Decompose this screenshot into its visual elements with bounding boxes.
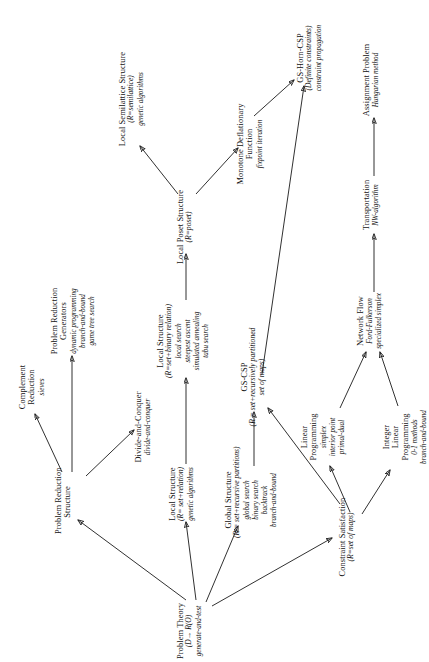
node-network-flow[interactable]: Network Flow Ford-Fulkerson specialized … bbox=[356, 286, 384, 356]
node-algorithm-2: interior point bbox=[329, 406, 337, 468]
node-algorithm-4: tabu search bbox=[202, 296, 210, 386]
node-local-structure-binary-relation[interactable]: Local Structure (R=set+binary relation) … bbox=[156, 296, 210, 386]
node-title-line2: Generators bbox=[59, 284, 68, 358]
edge-lp-nf bbox=[340, 352, 366, 408]
node-algorithm-3: simulated annealing bbox=[193, 296, 201, 386]
node-monotone-deflationary-function[interactable]: Monotone Deflationary Function fixpoint … bbox=[236, 102, 264, 186]
node-constraint-satisfaction[interactable]: Constraint Satisfaction (R=set of maps) bbox=[338, 494, 356, 580]
node-transportation[interactable]: Transportation NW-algorithm bbox=[362, 172, 380, 238]
node-title-line2: Reduction bbox=[27, 358, 36, 416]
node-title-line2: Linear bbox=[391, 402, 400, 472]
node-algorithm-1: fixpoint iteration bbox=[256, 102, 264, 186]
edge-gscsp-ghc bbox=[262, 86, 304, 374]
node-algorithms: divide-and-conquer bbox=[144, 388, 152, 466]
node-problem-theory[interactable]: Problem Theory (D→ R(O) generate-and-tes… bbox=[176, 600, 203, 662]
node-title-line2: Function bbox=[245, 102, 254, 186]
node-subtitle: (R=set+binary relation) bbox=[165, 296, 174, 386]
node-title-line2: Structure bbox=[63, 470, 72, 534]
node-title-line3: Programming bbox=[401, 402, 410, 472]
node-subtitle-line2: set of maps) bbox=[258, 318, 267, 436]
node-algorithm-3: game tree search bbox=[88, 284, 96, 358]
node-title-line1: Linear bbox=[300, 406, 309, 468]
node-global-structure[interactable]: Global Structure (R = set+recursive part… bbox=[224, 462, 278, 538]
node-algorithms: sieves bbox=[38, 358, 46, 416]
node-algorithm-2: branch-and-bound bbox=[79, 284, 87, 358]
node-algorithm-3: backtrack bbox=[261, 462, 269, 538]
node-algorithm-3: primal-dual bbox=[338, 406, 346, 468]
node-algorithm-1: 0-1 methods bbox=[411, 402, 419, 472]
node-subtitle: (R=semilattice) bbox=[127, 48, 136, 150]
node-algorithm-1: simplex bbox=[320, 406, 328, 468]
node-local-poset-structure[interactable]: Local Poset Structure (R=poset) bbox=[176, 188, 194, 266]
node-integer-linear-programming[interactable]: Integer Linear Programming 0-1 methods b… bbox=[382, 402, 428, 472]
node-title-line1: Complement bbox=[18, 358, 27, 416]
node-gs-horn-csp[interactable]: GS-Horn-CSP (Definite constraints) const… bbox=[296, 10, 323, 106]
node-subtitle: (D→ R(O) bbox=[185, 600, 194, 662]
node-title-line2: Programming bbox=[309, 406, 318, 468]
node-algorithm-1: constraint propagation bbox=[315, 10, 323, 106]
node-algorithm-2: branch-and-bound bbox=[420, 402, 428, 472]
node-algorithm-2: binary search bbox=[252, 462, 260, 538]
edge-prs-cr bbox=[35, 414, 62, 472]
node-subtitle: (Definite constraints) bbox=[305, 10, 314, 106]
diagram-canvas: Problem Theory (D→ R(O) generate-and-tes… bbox=[0, 0, 429, 662]
node-title-line1: Problem Reduction bbox=[50, 284, 59, 358]
node-title-line1: Divide-and-Conquer bbox=[134, 388, 143, 466]
node-algorithm-4: branch-and-bound bbox=[270, 462, 278, 538]
node-algorithms: generate-and-test bbox=[195, 600, 203, 662]
edge-pt-cs bbox=[212, 538, 332, 606]
edge-pt-ls bbox=[186, 522, 196, 600]
edge-ilp-nf bbox=[380, 352, 398, 406]
node-assignment-problem[interactable]: Assignment Problem Hungarian method bbox=[362, 38, 380, 122]
node-algorithm-2: steepest ascent bbox=[184, 296, 192, 386]
diagram-page: Problem Theory (D→ R(O) generate-and-tes… bbox=[0, 0, 429, 662]
node-algorithm-1: genetic algorithms bbox=[187, 460, 195, 528]
node-complement-reduction[interactable]: Complement Reduction sieves bbox=[18, 358, 46, 416]
node-title-line1: Problem Reduction bbox=[54, 470, 63, 534]
node-algorithm-2: specialized simplex bbox=[375, 286, 383, 356]
node-title-line1: Network Flow bbox=[356, 286, 365, 356]
node-algorithm-1: Hungarian method bbox=[372, 38, 380, 122]
node-subtitle: (R=set of maps) bbox=[347, 494, 356, 580]
node-algorithm-1: local search bbox=[175, 296, 183, 386]
node-linear-programming[interactable]: Linear Programming simplex interior poin… bbox=[300, 406, 346, 468]
node-algorithm-1: genetic algorithms bbox=[137, 48, 145, 150]
node-problem-reduction-structure[interactable]: Problem Reduction Structure bbox=[54, 470, 73, 534]
edge-lps-mdf bbox=[196, 148, 238, 194]
edge-cs-ilp bbox=[362, 470, 390, 514]
node-algorithm-1: Ford-Fulkerson bbox=[366, 286, 374, 356]
node-title-line1: Transportation bbox=[362, 172, 371, 238]
node-subtitle: (R=poset) bbox=[185, 188, 194, 266]
node-title-line1: Assignment Problem bbox=[362, 38, 371, 122]
node-subtitle: (R= set+relation) bbox=[177, 460, 186, 528]
node-algorithm-1: global search bbox=[243, 462, 251, 538]
node-algorithm-1: NW-algorithm bbox=[372, 172, 380, 238]
node-problem-reduction-generators[interactable]: Problem Reduction Generators dynamic pro… bbox=[50, 284, 96, 358]
node-title-line1: Monotone Deflationary bbox=[236, 102, 245, 186]
node-local-structure-relation[interactable]: Local Structure (R= set+relation) geneti… bbox=[168, 460, 195, 528]
node-algorithm-1: dynamic programming bbox=[70, 284, 78, 358]
edge-pt-prs bbox=[78, 520, 186, 600]
node-title-line1: Integer bbox=[382, 402, 391, 472]
node-gs-csp[interactable]: GS-CSP (R = set+recursively partitioned … bbox=[240, 318, 266, 436]
node-divide-and-conquer[interactable]: Divide-and-Conquer divide-and-conquer bbox=[134, 388, 152, 466]
node-subtitle: (R = set+recursive partitions) bbox=[233, 462, 242, 538]
edge-lps-lss bbox=[140, 146, 178, 194]
edge-prs-dc bbox=[86, 430, 134, 476]
node-local-semilattice-structure[interactable]: Local Semilattice Structure (R=semilatti… bbox=[118, 48, 145, 150]
